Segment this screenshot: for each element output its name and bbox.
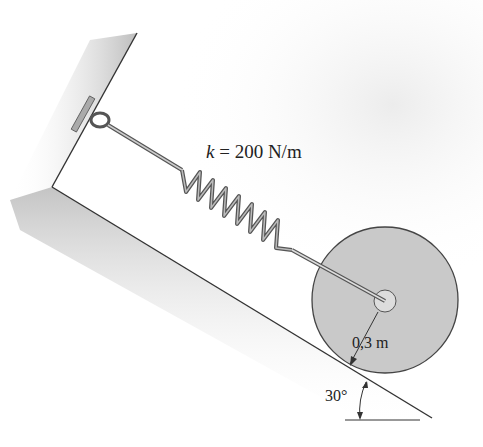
diagram: k = 200 N/m 0,3 m 30° [0,0,483,447]
wall-shade [10,33,137,200]
diagram-canvas [0,0,483,447]
eyebolt-icon [91,113,109,127]
spring-constant-label: k = 200 N/m [206,141,302,163]
radius-label: 0,3 m [352,334,388,352]
angle-label: 30° [325,387,347,405]
